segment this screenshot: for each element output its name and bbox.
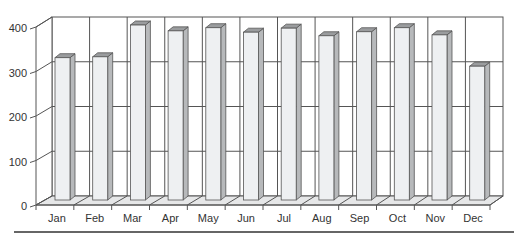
- bar-front-face: [357, 32, 372, 200]
- bar-side-face: [221, 24, 226, 200]
- bar-front-face: [319, 36, 334, 200]
- bar-side-face: [409, 24, 414, 200]
- bar-may: [206, 24, 226, 200]
- y-axis: 0100200300400: [9, 22, 36, 212]
- bar-side-face: [183, 27, 188, 200]
- y-tick-label: 300: [9, 67, 27, 79]
- y-tick-label: 200: [9, 111, 27, 123]
- x-tick-label: Jul: [277, 212, 291, 224]
- bar-side-face: [485, 62, 490, 200]
- bar-front-face: [281, 28, 296, 200]
- x-tick-label: Jan: [48, 212, 66, 224]
- x-tick-label: May: [198, 212, 219, 224]
- y-tick-label: 100: [9, 156, 27, 168]
- bar-front-face: [55, 58, 70, 200]
- x-tick-label: Feb: [85, 212, 104, 224]
- y-tick: [30, 116, 36, 118]
- y-tick-label: 400: [9, 22, 27, 34]
- x-tick-label: Oct: [389, 212, 406, 224]
- bar-dec: [470, 62, 490, 200]
- bar-sep: [357, 28, 377, 200]
- bar-front-face: [470, 66, 485, 200]
- bar-front-face: [432, 35, 447, 200]
- x-tick-label: Sep: [350, 212, 370, 224]
- bar-aug: [319, 32, 339, 200]
- bar-front-face: [244, 32, 259, 200]
- bar-side-face: [145, 21, 150, 200]
- bar-oct: [394, 24, 414, 200]
- bar-nov: [432, 31, 452, 200]
- bar-side-face: [70, 54, 75, 200]
- y-tick-label: 0: [21, 200, 27, 212]
- bar-front-face: [394, 28, 409, 200]
- bar-front-face: [93, 57, 108, 200]
- y-tick: [30, 161, 36, 163]
- x-tick-label: Dec: [463, 212, 483, 224]
- column-chart-3d: 0100200300400 JanFebMarAprMayJunJulAugSe…: [0, 0, 522, 241]
- y-tick: [30, 27, 36, 29]
- x-tick-label: Nov: [425, 212, 445, 224]
- bar-front-face: [130, 25, 145, 200]
- bar-side-face: [259, 28, 264, 200]
- bar-feb: [93, 53, 113, 200]
- x-tick-label: Apr: [162, 212, 179, 224]
- bar-apr: [168, 27, 188, 200]
- x-tick-label: Aug: [312, 212, 332, 224]
- y-tick: [30, 72, 36, 74]
- x-tick-label: Jun: [237, 212, 255, 224]
- bar-side-face: [334, 32, 339, 200]
- bar-jul: [281, 24, 301, 200]
- x-tick-label: Mar: [123, 212, 142, 224]
- bar-jun: [244, 28, 264, 200]
- bar-side-face: [372, 28, 377, 200]
- bar-front-face: [206, 28, 221, 200]
- x-axis: JanFebMarAprMayJunJulAugSepOctNovDec: [36, 205, 490, 224]
- bar-mar: [130, 21, 150, 200]
- bar-side-face: [447, 31, 452, 200]
- y-tick: [30, 205, 36, 207]
- bar-jan: [55, 54, 75, 200]
- bar-side-face: [108, 53, 113, 200]
- bar-front-face: [168, 31, 183, 200]
- bar-side-face: [296, 24, 301, 200]
